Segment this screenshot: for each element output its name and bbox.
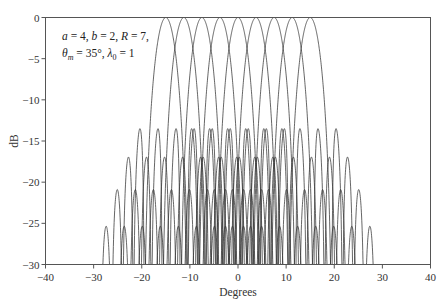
x-axis: −40−30−20−10010203040 — [37, 265, 437, 283]
y-axis: 0−5−10−15−20−25−30 — [22, 12, 45, 271]
x-tick-label: 0 — [235, 271, 241, 283]
x-tick-label: 20 — [329, 271, 341, 283]
beam-curve-6 — [184, 18, 328, 265]
y-tick-label: −25 — [22, 217, 40, 229]
beam-curve-8 — [220, 18, 364, 265]
annot-text: = 1 — [117, 47, 135, 59]
y-tick-label: −5 — [28, 53, 40, 65]
beam-curve-3 — [130, 18, 274, 265]
x-tick-label: 30 — [377, 271, 389, 283]
x-tick-label: −30 — [85, 271, 103, 283]
y-tick-label: −15 — [22, 135, 40, 147]
y-tick-label: 0 — [34, 12, 40, 24]
y-axis-title: dB — [8, 134, 20, 148]
beam-curves — [96, 18, 380, 265]
x-axis-title: Degrees — [219, 286, 257, 299]
annot-text: = 35°, — [73, 47, 107, 60]
y-tick-label: −10 — [22, 94, 40, 106]
beam-pattern-chart: 0−5−10−15−20−25−30 −40−30−20−10010203040… — [0, 0, 447, 304]
beam-curve-7 — [202, 18, 346, 265]
x-tick-label: 40 — [425, 271, 437, 283]
x-tick-label: −40 — [37, 271, 55, 283]
beam-curve-5 — [166, 18, 310, 265]
annot-R: R — [120, 30, 128, 42]
beam-curve-4 — [148, 18, 292, 265]
annot-text: = 7, — [128, 30, 149, 43]
x-tick-label: 10 — [281, 271, 293, 283]
parameter-annotation-line2: θm = 35°, λ0 = 1 — [62, 47, 135, 62]
annot-text: = 4, — [68, 30, 92, 43]
y-tick-label: −30 — [22, 259, 40, 271]
x-tick-label: −20 — [133, 271, 151, 283]
parameter-annotation-line1: a = 4, b = 2, R = 7, — [62, 30, 149, 43]
annot-text: = 2, — [97, 30, 121, 43]
y-tick-label: −20 — [22, 176, 40, 188]
x-tick-label: −10 — [181, 271, 199, 283]
